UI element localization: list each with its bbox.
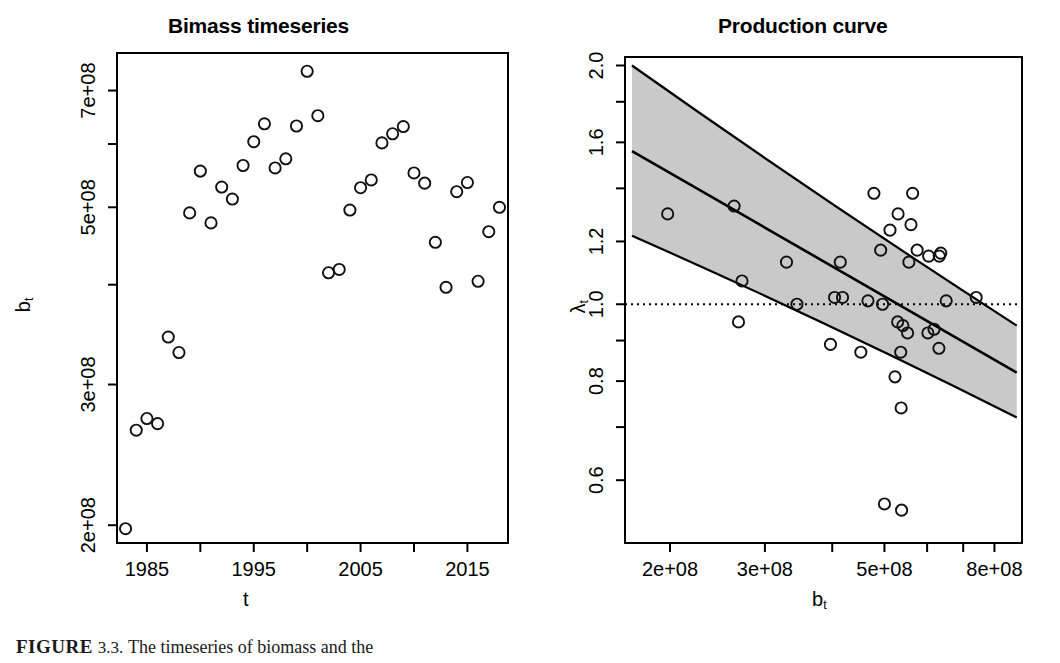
data-point: [430, 237, 441, 248]
data-point: [733, 316, 744, 327]
data-point: [879, 498, 890, 509]
biomass-timeseries-plot: 19851995200520152e+083e+085e+087e+08: [0, 0, 530, 620]
data-point: [923, 251, 934, 262]
figure-caption: FIGURE 3.3. The timeseries of biomass an…: [16, 636, 1046, 658]
y-tick-label: 2.0: [585, 52, 607, 80]
production-plot-content: [625, 66, 1022, 516]
y-tick-label: 0.6: [585, 466, 607, 494]
data-point: [884, 225, 895, 236]
y-tick-label: 5e+08: [77, 179, 99, 235]
data-point: [323, 267, 334, 278]
data-point: [334, 264, 345, 275]
data-point: [451, 186, 462, 197]
data-point: [355, 182, 366, 193]
data-point: [152, 418, 163, 429]
data-point: [248, 136, 259, 147]
figure-caption-number: 3.3.: [98, 638, 124, 657]
data-point: [216, 181, 227, 192]
data-point: [912, 245, 923, 256]
data-point: [889, 371, 900, 382]
data-point: [163, 331, 174, 342]
data-point: [907, 188, 918, 199]
x-tick-label: 2015: [445, 558, 490, 580]
biomass-y-axis-title: bt: [12, 298, 36, 313]
data-point: [892, 208, 903, 219]
data-point: [896, 505, 907, 516]
biomass-x-axis-title: t: [243, 588, 249, 611]
data-point: [855, 347, 866, 358]
x-tick-label: 8e+08: [966, 558, 1022, 580]
data-point: [302, 66, 313, 77]
data-point: [259, 118, 270, 129]
data-point: [173, 347, 184, 358]
figure-caption-body: The timeseries of biomass and the: [128, 637, 373, 657]
production-curve-plot: 2e+083e+085e+088e+080.60.81.01.21.62.0: [530, 0, 1060, 620]
data-point: [494, 202, 505, 213]
y-tick-label: 3e+08: [77, 356, 99, 412]
biomass-plot-frame: [117, 53, 508, 543]
y-tick-label: 1.2: [585, 228, 607, 256]
biomass-scatter-series: [120, 66, 505, 535]
data-point: [184, 207, 195, 218]
data-point: [896, 402, 907, 413]
biomass-y-axis-title-text: b: [12, 301, 34, 312]
production-y-axis-title-sub: t: [577, 300, 591, 303]
production-x-axis-title: bt: [812, 588, 827, 612]
data-point: [868, 188, 879, 199]
data-point: [440, 282, 451, 293]
data-point: [483, 226, 494, 237]
data-point: [366, 174, 377, 185]
y-tick-label: 0.8: [585, 367, 607, 395]
data-point: [141, 413, 152, 424]
x-tick-label: 5e+08: [856, 558, 912, 580]
data-point: [312, 110, 323, 121]
data-point: [205, 217, 216, 228]
production-y-axis-title-text: λ: [567, 304, 589, 314]
data-point: [472, 276, 483, 287]
x-tick-label: 2e+08: [642, 558, 698, 580]
data-point: [376, 137, 387, 148]
data-point: [905, 219, 916, 230]
biomass-plot-title: Bimass timeseries: [168, 14, 349, 38]
data-point: [419, 178, 430, 189]
x-tick-label: 1985: [125, 558, 170, 580]
data-point: [344, 204, 355, 215]
x-tick-label: 3e+08: [737, 558, 793, 580]
data-point: [131, 425, 142, 436]
x-tick-label: 1995: [231, 558, 276, 580]
data-point: [195, 165, 206, 176]
data-point: [825, 339, 836, 350]
y-tick-label: 7e+08: [77, 62, 99, 118]
biomass-axes: 19851995200520152e+083e+085e+087e+08: [77, 53, 508, 580]
data-point: [291, 120, 302, 131]
data-point: [237, 160, 248, 171]
data-point: [280, 153, 291, 164]
y-tick-label: 1.6: [585, 128, 607, 156]
biomass-y-axis-title-sub: t: [22, 298, 36, 301]
panel-production-curve: 2e+083e+085e+088e+080.60.81.01.21.62.0: [530, 0, 1060, 620]
figure-caption-head: FIGURE: [16, 636, 93, 657]
data-point: [120, 523, 131, 534]
panel-biomass-timeseries: 19851995200520152e+083e+085e+087e+08: [0, 0, 530, 620]
data-point: [227, 193, 238, 204]
data-point: [398, 121, 409, 132]
y-tick-label: 2e+08: [77, 497, 99, 553]
production-x-axis-title-sub: t: [823, 598, 826, 612]
production-plot-title: Production curve: [718, 14, 888, 38]
data-point: [270, 162, 281, 173]
confidence-band-fill: [632, 66, 1017, 418]
production-x-axis-title-text: b: [812, 588, 823, 610]
production-y-axis-title: λt: [567, 300, 591, 313]
x-tick-label: 2005: [338, 558, 383, 580]
figure-root: 19851995200520152e+083e+085e+087e+08 2e+…: [0, 0, 1060, 663]
data-point: [462, 177, 473, 188]
biomass-x-axis-title-text: t: [243, 588, 249, 610]
data-point: [387, 128, 398, 139]
data-point: [408, 167, 419, 178]
